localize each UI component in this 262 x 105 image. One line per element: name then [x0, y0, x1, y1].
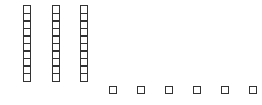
- tens-rod: [80, 5, 88, 82]
- unit-cube: [249, 86, 257, 94]
- rod-cell: [23, 73, 31, 82]
- rod-cell: [52, 73, 60, 82]
- tens-rod: [52, 5, 60, 82]
- unit-cube: [193, 86, 201, 94]
- unit-cube: [109, 86, 117, 94]
- rod-cell: [80, 73, 88, 82]
- unit-cube: [137, 86, 145, 94]
- unit-cube: [221, 86, 229, 94]
- unit-cube: [165, 86, 173, 94]
- tens-rod: [23, 5, 31, 82]
